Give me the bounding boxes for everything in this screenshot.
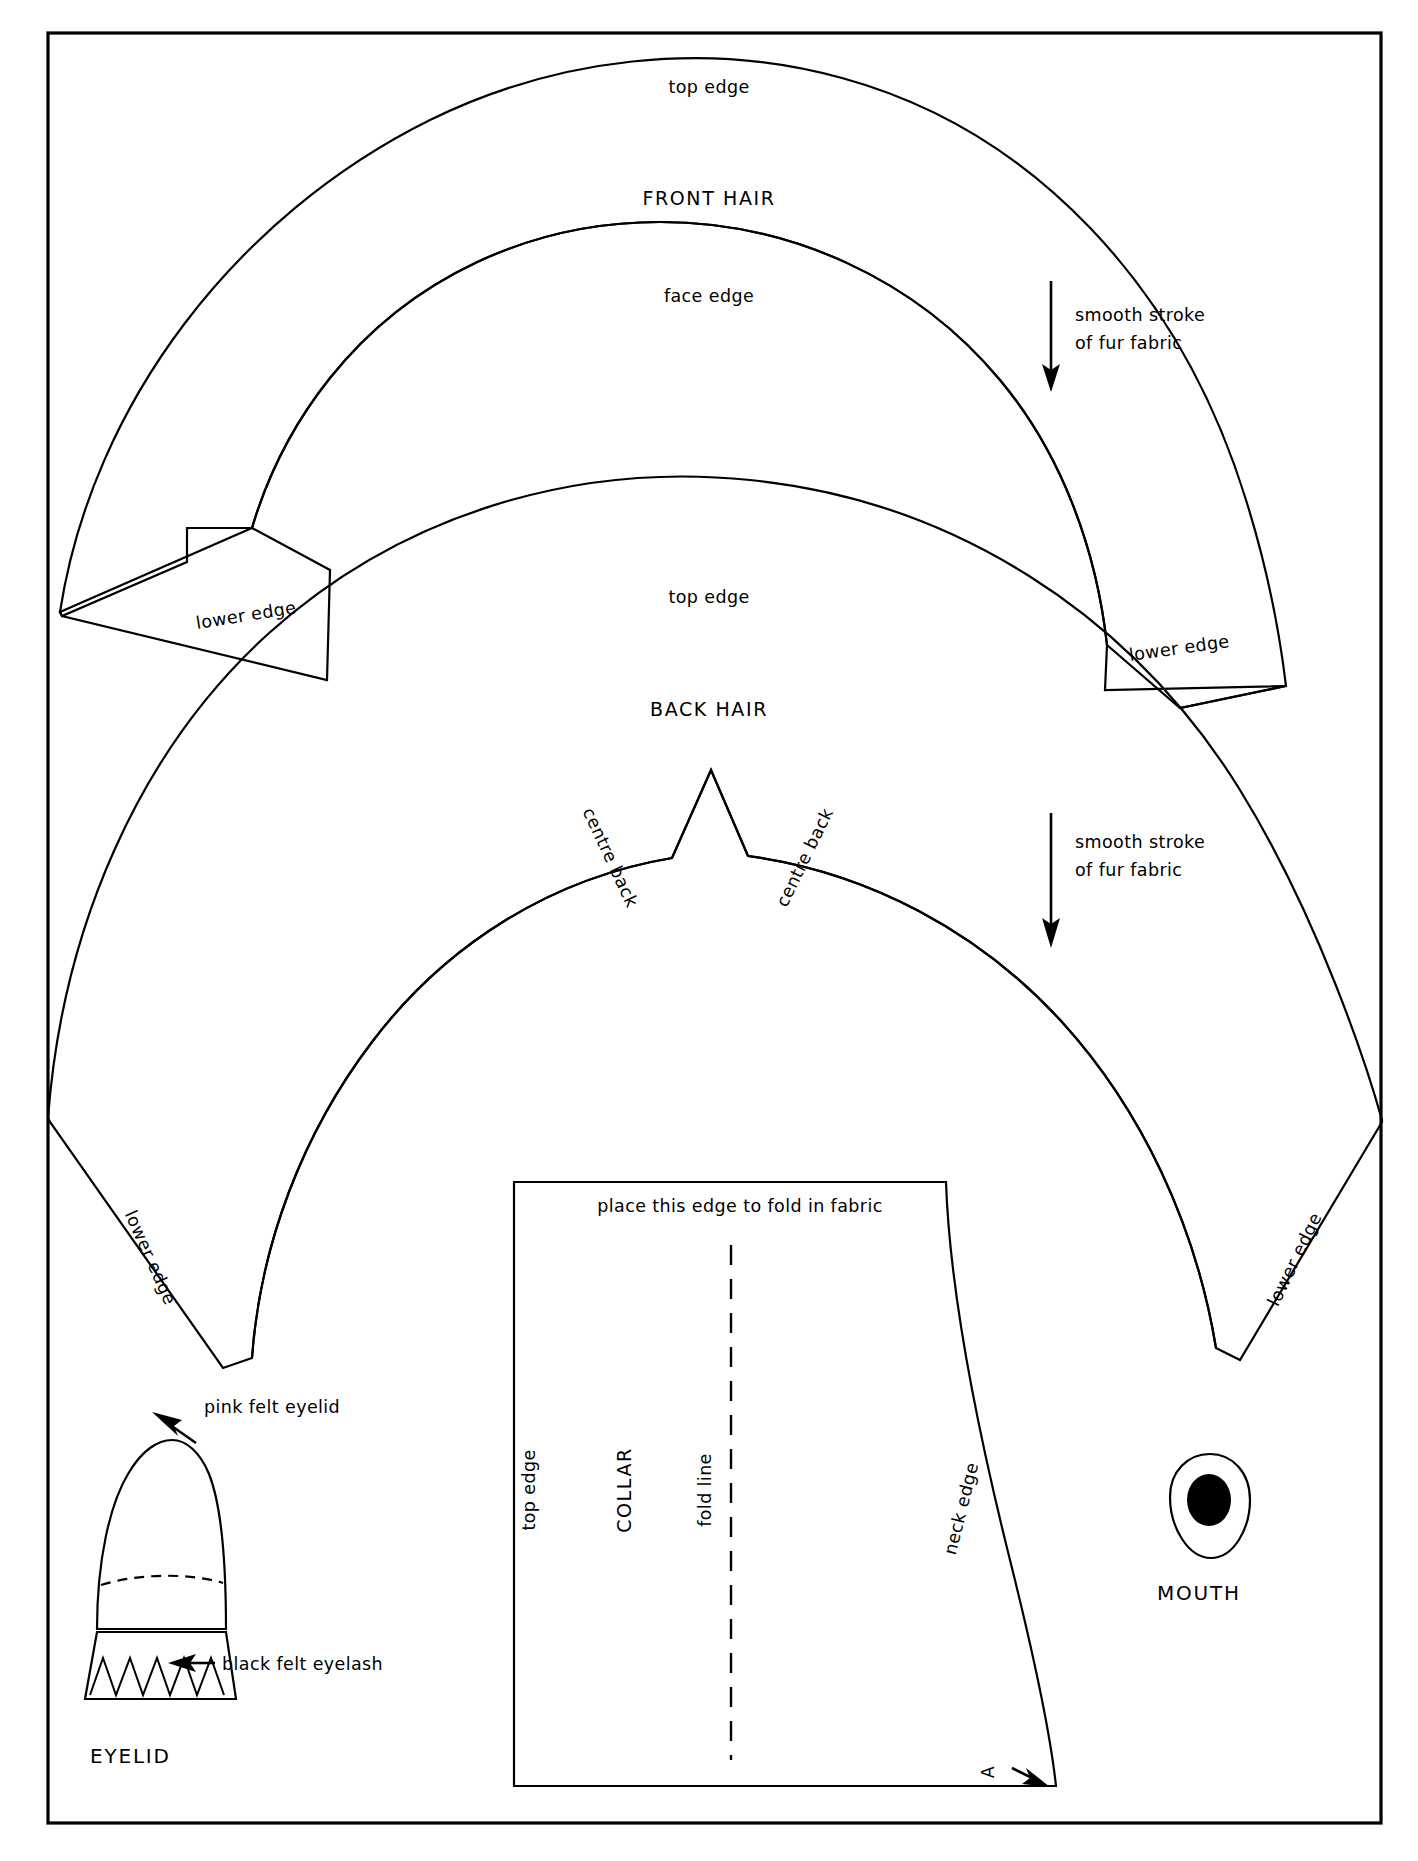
eyelid-dome-outline (97, 1440, 226, 1629)
back-hair-grain-note-line2: of fur fabric (1075, 860, 1182, 880)
eyelid-callout-bottom-label: black felt eyelash (222, 1654, 383, 1674)
front-hair-grain-note-line2: of fur fabric (1075, 333, 1182, 353)
collar-fold-line-label: fold line (695, 1453, 715, 1527)
collar-fold-instruction: place this edge to fold in fabric (597, 1196, 882, 1216)
pattern-sheet: top edge FRONT HAIR face edge smooth str… (0, 0, 1418, 1861)
back-hair-lower-edge-right-label: lower edge (1263, 1210, 1325, 1310)
back-hair-inner-edge (252, 770, 1216, 1358)
back-hair-centre-back-right-label: centre back (772, 804, 837, 910)
back-hair-grain-note-line1: smooth stroke (1075, 832, 1205, 852)
front-hair-grain-arrow (1042, 281, 1060, 392)
eyelid-stitch-line (101, 1576, 223, 1585)
collar-notch-arrow (1012, 1768, 1050, 1787)
back-hair-title: BACK HAIR (650, 698, 768, 720)
front-hair-face-edge-label: face edge (664, 286, 754, 306)
back-hair-centre-back-left-label: centre back (579, 805, 643, 911)
collar-top-edge-label: top edge (519, 1449, 539, 1530)
eyelid-callout-top-label: pink felt eyelid (204, 1397, 340, 1417)
back-hair-top-edge-label: top edge (668, 587, 749, 607)
front-hair-lower-edge-left-label: lower edge (194, 597, 297, 633)
pattern-drawing: top edge FRONT HAIR face edge smooth str… (0, 0, 1418, 1861)
mouth-inner-fill (1187, 1474, 1231, 1526)
back-hair-grain-arrow (1042, 813, 1060, 948)
front-hair-lower-edge-right-label: lower edge (1128, 631, 1231, 665)
collar-neck-edge-label: neck edge (940, 1460, 982, 1557)
front-hair-grain-note-line1: smooth stroke (1075, 305, 1205, 325)
front-hair-top-edge-label: top edge (668, 77, 749, 97)
collar-notch-marker-label: A (978, 1766, 998, 1778)
eyelid-callout-arrow-bottom (168, 1654, 215, 1672)
eyelid-callout-arrow-top (152, 1412, 196, 1443)
back-hair-lower-edge-left-label: lower edge (121, 1207, 180, 1308)
eyelid-title: EYELID (90, 1744, 171, 1768)
front-hair-title: FRONT HAIR (642, 187, 775, 209)
collar-title: COLLAR (613, 1447, 635, 1533)
mouth-title: MOUTH (1157, 1581, 1241, 1605)
